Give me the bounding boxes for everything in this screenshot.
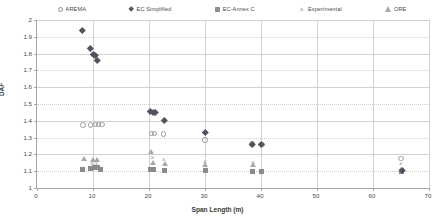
- gridline-horizontal: [37, 138, 429, 139]
- data-point-experimental: ×: [398, 161, 404, 167]
- gridline-vertical: [373, 20, 374, 188]
- filled-square-icon: [215, 7, 220, 12]
- y-axis-tick: [34, 138, 37, 139]
- x-axis-tick: [37, 188, 38, 191]
- legend-item-label: EC-Annex C: [223, 6, 255, 12]
- x-axis-tick-label: 50: [303, 192, 329, 199]
- gridline-horizontal: [37, 20, 429, 21]
- y-axis-tick: [34, 154, 37, 155]
- x-axis-tick: [429, 188, 430, 191]
- legend-item-experimental[interactable]: ×Experimental: [298, 6, 342, 13]
- chart-legend: AREMAEC SimplifiedEC-Annex C×Experimenta…: [36, 2, 428, 16]
- y-axis-tick-label: 1.5: [10, 100, 32, 107]
- filled-diamond-icon: [128, 6, 134, 12]
- legend-item-ec-simplified[interactable]: EC Simplified: [129, 6, 171, 12]
- cross-icon: ×: [298, 6, 305, 13]
- y-axis-tick-label: 1.8: [10, 50, 32, 57]
- gridline-horizontal: [37, 154, 429, 155]
- legend-item-label: AREMA: [66, 6, 86, 12]
- x-axis-tick-label: 60: [359, 192, 385, 199]
- data-point-ore: [94, 157, 100, 162]
- data-point-arema: [398, 156, 403, 161]
- y-axis-tick: [34, 20, 37, 21]
- data-point-ore: [81, 156, 87, 161]
- legend-item-label: EC Simplified: [137, 6, 172, 12]
- legend-item-ore[interactable]: ORE: [385, 6, 406, 12]
- gridline-horizontal: [37, 70, 429, 71]
- triangle-icon: [385, 6, 391, 12]
- gridline-horizontal: [37, 37, 429, 38]
- data-point-arema: [96, 122, 101, 127]
- y-axis-tick-label: 1.4: [10, 117, 32, 124]
- legend-item-ec-annex-c[interactable]: EC-Annex C: [215, 6, 255, 12]
- y-axis-tick-label: 1: [10, 184, 32, 191]
- data-point-ore: [250, 162, 256, 167]
- x-axis-tick-label: 30: [191, 192, 217, 199]
- data-point-experimental: ×: [250, 160, 256, 166]
- y-axis-tick-label: 1.1: [10, 168, 32, 175]
- y-axis-tick-label: 1.7: [10, 67, 32, 74]
- y-axis-tick: [34, 54, 37, 55]
- y-axis-tick-label: 2: [10, 16, 32, 23]
- data-point-ec-simplified: [152, 109, 158, 115]
- daf-span-length-scatter-chart: AREMAEC SimplifiedEC-Annex C×Experimenta…: [0, 0, 435, 221]
- gridline-horizontal: [37, 104, 429, 105]
- y-axis-tick: [34, 37, 37, 38]
- gridline-horizontal: [37, 54, 429, 55]
- open-circle-icon: [58, 7, 63, 12]
- data-point-arema: [249, 141, 254, 146]
- x-axis-tick: [149, 188, 150, 191]
- x-axis-tick-label: 0: [23, 192, 49, 199]
- data-point-arema: [152, 131, 157, 136]
- legend-item-label: ORE: [394, 6, 406, 12]
- x-axis-tick: [373, 188, 374, 191]
- y-axis-tick-label: 1.9: [10, 33, 32, 40]
- data-point-ore: [150, 160, 156, 165]
- data-point-ec-simplified: [147, 108, 153, 114]
- x-axis-tick: [317, 188, 318, 191]
- y-axis-tick: [34, 104, 37, 105]
- y-axis-tick: [34, 70, 37, 71]
- gridline-horizontal: [37, 171, 429, 172]
- gridline-vertical: [93, 20, 94, 188]
- x-axis-tick: [93, 188, 94, 191]
- data-point-experimental: ×: [93, 161, 99, 167]
- y-axis-tick-label: 1.2: [10, 151, 32, 158]
- y-axis-tick-label: 1.3: [10, 134, 32, 141]
- x-axis-tick: [261, 188, 262, 191]
- gridline-vertical: [429, 20, 430, 188]
- data-point-experimental: ×: [161, 157, 167, 163]
- data-point-ec-annex-c: [95, 165, 100, 170]
- gridline-vertical: [149, 20, 150, 188]
- y-axis-tick: [34, 121, 37, 122]
- plot-area: ×××××××: [36, 20, 429, 189]
- y-axis-tick: [34, 87, 37, 88]
- data-point-arema: [161, 131, 166, 136]
- y-axis-title: DAF: [0, 83, 5, 96]
- gridline-horizontal: [37, 121, 429, 122]
- y-axis-tick-label: 1.6: [10, 84, 32, 91]
- data-point-ec-simplified: [150, 109, 156, 115]
- data-point-arema: [80, 122, 85, 127]
- gridline-vertical: [317, 20, 318, 188]
- x-axis-tick-label: 10: [79, 192, 105, 199]
- gridline-vertical: [261, 20, 262, 188]
- gridline-horizontal: [37, 87, 429, 88]
- data-point-ec-simplified: [249, 141, 255, 147]
- y-axis-tick: [34, 171, 37, 172]
- data-point-experimental: ×: [149, 155, 155, 161]
- data-point-ec-simplified: [79, 27, 85, 33]
- x-axis-tick-label: 20: [135, 192, 161, 199]
- x-axis-title: Span Length (m): [0, 206, 435, 213]
- x-axis-tick: [205, 188, 206, 191]
- data-point-ore: [162, 161, 168, 166]
- data-point-ec-simplified: [94, 57, 100, 63]
- data-point-arema: [99, 122, 104, 127]
- legend-item-label: Experimental: [308, 6, 342, 12]
- legend-item-arema[interactable]: AREMA: [58, 6, 86, 12]
- gridline-vertical: [205, 20, 206, 188]
- x-axis-tick-label: 70: [415, 192, 435, 199]
- x-axis-tick-label: 40: [247, 192, 273, 199]
